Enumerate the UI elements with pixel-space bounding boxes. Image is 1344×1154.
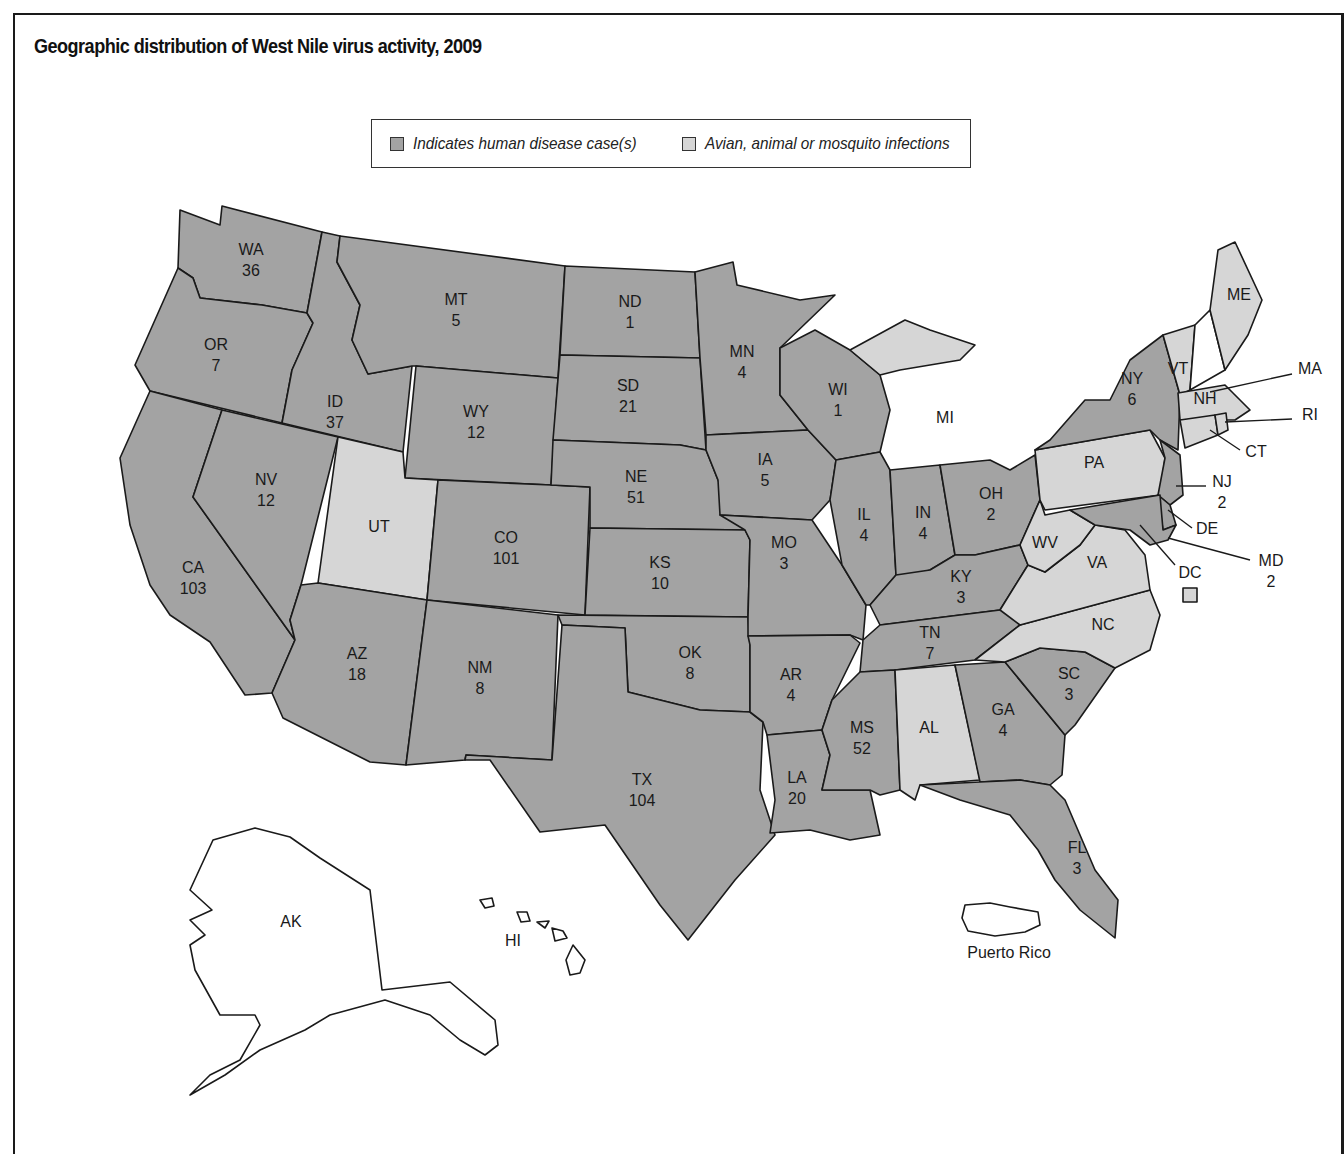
case-count-sd: 21 bbox=[619, 398, 637, 415]
case-count-il: 4 bbox=[860, 527, 869, 544]
state-label-sc: SC bbox=[1058, 665, 1080, 682]
state-label-ms: MS bbox=[850, 719, 874, 736]
case-count-ca: 103 bbox=[180, 580, 207, 597]
state-label-ny: NY bbox=[1121, 370, 1144, 387]
state-label-nd: ND bbox=[618, 293, 641, 310]
case-count-az: 18 bbox=[348, 666, 366, 683]
state-label-ne: NE bbox=[625, 468, 647, 485]
territory-label-pr: Puerto Rico bbox=[967, 944, 1051, 961]
state-label-pa: PA bbox=[1084, 454, 1104, 471]
territory-pr[interactable] bbox=[962, 903, 1040, 936]
case-count-fl: 3 bbox=[1073, 860, 1082, 877]
state-label-ri: RI bbox=[1302, 406, 1318, 423]
case-count-md: 2 bbox=[1267, 573, 1276, 590]
state-label-nh: NH bbox=[1193, 390, 1216, 407]
state-label-md: MD bbox=[1259, 552, 1284, 569]
case-count-nm: 8 bbox=[476, 680, 485, 697]
state-label-ct: CT bbox=[1245, 443, 1267, 460]
case-count-ok: 8 bbox=[686, 665, 695, 682]
state-label-ia: IA bbox=[757, 451, 772, 468]
state-label-or: OR bbox=[204, 336, 228, 353]
state-label-wy: WY bbox=[463, 403, 489, 420]
state-label-ga: GA bbox=[991, 701, 1014, 718]
state-label-co: CO bbox=[494, 529, 518, 546]
state-label-la: LA bbox=[787, 769, 807, 786]
case-count-oh: 2 bbox=[987, 506, 996, 523]
state-label-wa: WA bbox=[238, 241, 264, 258]
case-count-tx: 104 bbox=[629, 792, 656, 809]
us-map: WA36OR7CA103ID37NV12MT5WY12UTCO101AZ18NM… bbox=[0, 0, 1344, 1154]
state-nj[interactable] bbox=[1158, 440, 1183, 505]
state-label-ky: KY bbox=[950, 568, 972, 585]
state-label-dc: DC bbox=[1178, 564, 1201, 581]
state-label-de: DE bbox=[1196, 520, 1218, 537]
case-count-mt: 5 bbox=[452, 312, 461, 329]
state-label-nm: NM bbox=[468, 659, 493, 676]
state-label-mn: MN bbox=[730, 343, 755, 360]
state-nd[interactable] bbox=[560, 266, 700, 358]
case-count-ne: 51 bbox=[627, 489, 645, 506]
case-count-ga: 4 bbox=[999, 722, 1008, 739]
state-ks[interactable] bbox=[585, 528, 750, 617]
case-count-nv: 12 bbox=[257, 492, 275, 509]
state-hi[interactable] bbox=[480, 898, 585, 975]
case-count-nd: 1 bbox=[626, 314, 635, 331]
state-label-il: IL bbox=[857, 506, 870, 523]
state-label-ca: CA bbox=[182, 559, 205, 576]
case-count-ky: 3 bbox=[957, 589, 966, 606]
case-count-in: 4 bbox=[919, 525, 928, 542]
case-count-tn: 7 bbox=[926, 645, 935, 662]
state-label-ut: UT bbox=[368, 518, 390, 535]
state-ny[interactable] bbox=[1035, 335, 1180, 450]
state-label-in: IN bbox=[915, 504, 931, 521]
state-label-ok: OK bbox=[678, 644, 701, 661]
case-count-ia: 5 bbox=[761, 472, 770, 489]
state-label-nj: NJ bbox=[1212, 473, 1232, 490]
state-label-sd: SD bbox=[617, 377, 639, 394]
case-count-wa: 36 bbox=[242, 262, 260, 279]
state-label-vt: VT bbox=[1168, 360, 1189, 377]
state-label-ks: KS bbox=[649, 554, 670, 571]
state-label-hi: HI bbox=[505, 932, 521, 949]
case-count-or: 7 bbox=[212, 357, 221, 374]
case-count-nj: 2 bbox=[1218, 494, 1227, 511]
case-count-la: 20 bbox=[788, 790, 806, 807]
case-count-co: 101 bbox=[493, 550, 520, 567]
state-label-mi: MI bbox=[936, 409, 954, 426]
case-count-id: 37 bbox=[326, 414, 344, 431]
state-label-tn: TN bbox=[919, 624, 940, 641]
state-ri[interactable] bbox=[1215, 413, 1228, 435]
case-count-ms: 52 bbox=[853, 740, 871, 757]
state-label-ar: AR bbox=[780, 666, 802, 683]
case-count-ks: 10 bbox=[651, 575, 669, 592]
state-ak[interactable] bbox=[190, 828, 498, 1095]
state-label-id: ID bbox=[327, 393, 343, 410]
state-label-tx: TX bbox=[632, 771, 653, 788]
case-count-mo: 3 bbox=[780, 555, 789, 572]
case-count-sc: 3 bbox=[1065, 686, 1074, 703]
state-label-nv: NV bbox=[255, 471, 278, 488]
case-count-wi: 1 bbox=[834, 402, 843, 419]
state-label-me: ME bbox=[1227, 286, 1251, 303]
state-label-wv: WV bbox=[1032, 534, 1058, 551]
case-count-mn: 4 bbox=[738, 364, 747, 381]
state-label-wi: WI bbox=[828, 381, 848, 398]
state-co[interactable] bbox=[427, 480, 590, 615]
case-count-ar: 4 bbox=[787, 687, 796, 704]
state-label-ak: AK bbox=[280, 913, 302, 930]
state-ia[interactable] bbox=[706, 430, 836, 520]
state-label-va: VA bbox=[1087, 554, 1107, 571]
case-count-wy: 12 bbox=[467, 424, 485, 441]
state-label-fl: FL bbox=[1068, 839, 1087, 856]
state-label-az: AZ bbox=[347, 645, 368, 662]
dc-swatch-icon bbox=[1183, 588, 1197, 602]
case-count-ny: 6 bbox=[1128, 391, 1137, 408]
state-label-mo: MO bbox=[771, 534, 797, 551]
state-label-mt: MT bbox=[444, 291, 467, 308]
state-label-al: AL bbox=[919, 719, 939, 736]
state-label-oh: OH bbox=[979, 485, 1003, 502]
state-label-nc: NC bbox=[1091, 616, 1114, 633]
state-label-ma: MA bbox=[1298, 360, 1322, 377]
